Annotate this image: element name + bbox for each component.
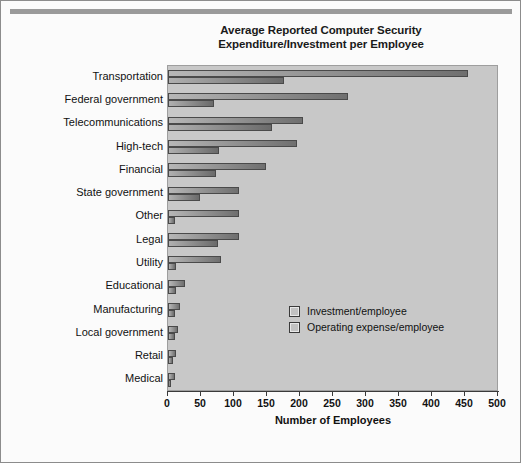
x-tick: [167, 391, 168, 396]
bar-operating-expense: [168, 77, 284, 84]
category-label: Other: [23, 209, 163, 221]
chart-title: Average Reported Computer Security Expen…: [171, 23, 471, 51]
category-label: Utility: [23, 256, 163, 268]
x-tick: [266, 391, 267, 396]
category-label: Medical: [23, 372, 163, 384]
bars-layer: [168, 66, 497, 390]
bar-operating-expense: [168, 100, 214, 107]
legend-item: Investment/employee: [289, 304, 444, 318]
category-label: High-tech: [23, 140, 163, 152]
x-tick-label: 100: [224, 397, 242, 409]
category-label: Federal government: [23, 93, 163, 105]
legend-label: Operating expense/employee: [307, 321, 444, 333]
x-tick: [497, 391, 498, 396]
x-tick-label: 50: [194, 397, 206, 409]
category-label: Legal: [23, 233, 163, 245]
x-tick: [365, 391, 366, 396]
bar-investment: [168, 187, 239, 194]
x-axis-line: [167, 391, 499, 392]
category-label: Telecommunications: [23, 116, 163, 128]
bar-operating-expense: [168, 217, 175, 224]
plot-area: [167, 65, 498, 391]
category-label: Educational: [23, 279, 163, 291]
bar-operating-expense: [168, 310, 175, 317]
bar-investment: [168, 373, 175, 380]
x-tick-label: 400: [422, 397, 440, 409]
bar-investment: [168, 350, 176, 357]
x-tick: [233, 391, 234, 396]
bar-investment: [168, 256, 221, 263]
bar-operating-expense: [168, 333, 175, 340]
bar-investment: [168, 210, 239, 217]
bar-investment: [168, 326, 178, 333]
x-tick-label: 200: [290, 397, 308, 409]
bar-investment: [168, 303, 180, 310]
x-tick-label: 500: [488, 397, 506, 409]
bar-investment: [168, 70, 468, 77]
chart-legend: Investment/employee Operating expense/em…: [289, 304, 444, 336]
x-tick-label: 450: [455, 397, 473, 409]
x-tick-label: 250: [323, 397, 341, 409]
legend-swatch-icon: [289, 306, 300, 317]
x-tick: [398, 391, 399, 396]
legend-label: Investment/employee: [307, 305, 407, 317]
x-tick: [200, 391, 201, 396]
bar-operating-expense: [168, 287, 176, 294]
x-axis-label: Number of Employees: [167, 414, 499, 426]
x-tick-label: 350: [389, 397, 407, 409]
category-label: Transportation: [23, 70, 163, 82]
x-tick-label: 300: [356, 397, 374, 409]
chart-title-line-1: Average Reported Computer Security: [171, 23, 471, 37]
chart-title-line-2: Expenditure/Investment per Employee: [171, 37, 471, 51]
x-tick: [464, 391, 465, 396]
bar-operating-expense: [168, 194, 200, 201]
header-rule: [10, 9, 512, 14]
category-axis-labels: TransportationFederal governmentTelecomm…: [19, 65, 163, 391]
category-label: Retail: [23, 349, 163, 361]
bar-operating-expense: [168, 380, 171, 387]
bar-operating-expense: [168, 357, 173, 364]
category-label: Manufacturing: [23, 303, 163, 315]
bar-operating-expense: [168, 240, 218, 247]
bar-operating-expense: [168, 124, 272, 131]
chart-container: Average Reported Computer Security Expen…: [0, 0, 521, 463]
bar-investment: [168, 93, 348, 100]
category-label: State government: [23, 186, 163, 198]
bar-investment: [168, 117, 303, 124]
bar-investment: [168, 163, 266, 170]
category-label: Financial: [23, 163, 163, 175]
bar-investment: [168, 233, 239, 240]
legend-item: Operating expense/employee: [289, 320, 444, 334]
legend-swatch-icon: [289, 322, 300, 333]
bar-operating-expense: [168, 147, 219, 154]
x-tick: [332, 391, 333, 396]
bar-operating-expense: [168, 170, 216, 177]
bar-operating-expense: [168, 263, 176, 270]
category-label: Local government: [23, 326, 163, 338]
bar-investment: [168, 280, 185, 287]
x-tick: [431, 391, 432, 396]
x-tick: [299, 391, 300, 396]
bar-investment: [168, 140, 297, 147]
x-tick-label: 0: [164, 397, 170, 409]
x-tick-label: 150: [257, 397, 275, 409]
